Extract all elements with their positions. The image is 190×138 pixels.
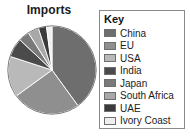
legend-item-label: China (120, 28, 146, 39)
pie-chart-svg (7, 23, 97, 117)
legend-swatch-icon (104, 54, 116, 62)
pie-chart (7, 23, 97, 117)
legend-title: Key (104, 13, 184, 26)
legend-item[interactable]: EU (104, 40, 184, 52)
legend-item-label: UAE (120, 103, 141, 114)
chart-area: Imports (0, 0, 98, 138)
legend-item-label: EU (120, 40, 134, 51)
legend-swatch-icon (104, 92, 116, 100)
legend-item[interactable]: China (104, 27, 184, 39)
legend-items: ChinaEUUSAIndiaJapanSouth AfricaUAEIvory… (104, 27, 184, 127)
legend-item[interactable]: Ivory Coast (104, 115, 184, 127)
pie-slices (8, 26, 96, 114)
legend-swatch-icon (104, 29, 116, 37)
legend-item[interactable]: UAE (104, 102, 184, 114)
legend-swatch-icon (104, 79, 116, 87)
legend-item-label: India (120, 65, 142, 76)
legend-swatch-icon (104, 42, 116, 50)
legend-box: Key ChinaEUUSAIndiaJapanSouth AfricaUAEI… (99, 10, 185, 129)
legend-swatch-icon (104, 67, 116, 75)
legend-item-label: South Africa (120, 90, 174, 101)
chart-title: Imports (0, 3, 98, 17)
legend-item[interactable]: India (104, 65, 184, 77)
pie-chart-figure: Imports Key ChinaEUUSAIndiaJapanSouth Af… (0, 0, 190, 138)
legend-item[interactable]: South Africa (104, 90, 184, 102)
legend-item-label: USA (120, 53, 141, 64)
legend-item[interactable]: USA (104, 52, 184, 64)
legend-item-label: Ivory Coast (120, 115, 171, 126)
legend-swatch-icon (104, 117, 116, 125)
legend-item-label: Japan (120, 78, 147, 89)
legend-swatch-icon (104, 104, 116, 112)
legend-item[interactable]: Japan (104, 77, 184, 89)
